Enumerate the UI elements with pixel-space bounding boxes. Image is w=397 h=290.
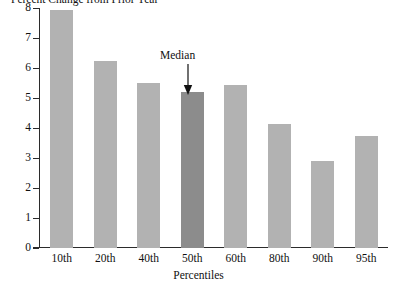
x-axis-title: Percentiles [0, 269, 397, 281]
x-axis-tick-label: 50th [171, 252, 215, 264]
y-axis-tick-label-text: 6 [3, 62, 31, 74]
y-axis-tick-label: 1 [0, 212, 31, 224]
x-axis-tick-label: 95th [345, 252, 389, 264]
y-axis-tick-label-text: 5 [3, 92, 31, 104]
bar [224, 85, 247, 249]
bar [311, 161, 334, 248]
bar [355, 136, 378, 249]
y-axis-tick-label: 0 [0, 242, 31, 254]
y-axis-tick-label-text: 2 [3, 182, 31, 194]
x-axis-tick-label: 80th [258, 252, 302, 264]
y-axis-tick [33, 218, 39, 219]
y-axis-tick [33, 128, 39, 129]
bar [268, 124, 291, 249]
x-axis-tick-label: 90th [301, 252, 345, 264]
y-axis-tick-label: 5 [0, 92, 31, 104]
y-axis-tick [33, 8, 39, 9]
y-axis-tick-label: 4 [0, 122, 31, 134]
median-annotation-arrow-icon [182, 64, 194, 96]
bar [137, 83, 160, 248]
chart-title: Percent Change from Prior Year [11, 0, 158, 5]
median-annotation-label: Median [160, 49, 195, 61]
y-axis-tick-label-text: 1 [3, 212, 31, 224]
y-axis-tick [33, 98, 39, 99]
x-axis-tick-label: 60th [214, 252, 258, 264]
y-axis-tick-label-text: 4 [3, 122, 31, 134]
y-axis-tick-label: 7 [0, 32, 31, 44]
bars-layer [40, 8, 388, 248]
y-axis-tick [33, 158, 39, 159]
y-axis-tick-label-text: 3 [3, 152, 31, 164]
bar [50, 10, 73, 249]
bar-median [181, 92, 204, 248]
y-axis-tick-label: 6 [0, 62, 31, 74]
y-axis-tick [33, 248, 39, 249]
y-axis-tick [33, 38, 39, 39]
y-axis-tick-label: 3 [0, 152, 31, 164]
x-axis-tick-label: 40th [127, 252, 171, 264]
y-axis-tick-label: 8 [0, 2, 31, 14]
bar-chart: Percent Change from Prior Year 012345678… [0, 0, 397, 290]
x-axis-tick-label: 10th [40, 252, 84, 264]
y-axis-tick [33, 68, 39, 69]
y-axis-tick-label-text: 7 [3, 32, 31, 44]
y-axis-tick-label: 2 [0, 182, 31, 194]
y-axis-tick-label-text: 0 [3, 242, 31, 254]
y-axis-tick [33, 188, 39, 189]
y-axis-tick-label-text: 8 [3, 2, 31, 14]
x-axis-tick-label: 20th [84, 252, 128, 264]
bar [94, 61, 117, 249]
